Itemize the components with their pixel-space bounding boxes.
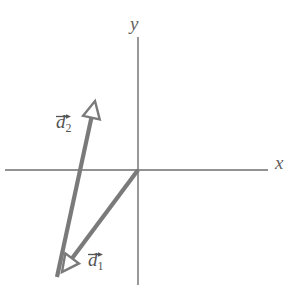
vector-d2-label: d2 (56, 112, 72, 134)
vector-arrow-accent-icon (56, 112, 71, 119)
vector-d1-label-subscript: 1 (98, 259, 104, 273)
y-axis-label: y (130, 14, 138, 33)
vector-diagram-canvas (0, 0, 296, 294)
vector-d1-label: d1 (88, 250, 104, 272)
x-axis-label: x (275, 153, 283, 172)
vector-d2-arrowhead (83, 101, 100, 119)
vector-arrow-accent-icon (88, 250, 103, 257)
vector-d1-shaft (72, 170, 138, 258)
vector-diagram-figure: y x d2 d1 (0, 0, 296, 294)
vector-d2-label-subscript: 2 (66, 121, 72, 135)
